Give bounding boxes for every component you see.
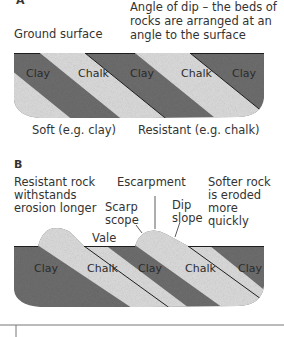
panel-b-block bbox=[0, 220, 284, 330]
softer-rock-line-4: quickly bbox=[208, 215, 249, 228]
scarp-slope-line-2: scope bbox=[105, 214, 139, 227]
rock-label-chalk: Chalk bbox=[78, 67, 109, 80]
rock-label-clay: Clay bbox=[238, 262, 262, 275]
escarpment-label: Escarpment bbox=[117, 176, 186, 189]
rock-label-clay: Clay bbox=[232, 67, 256, 80]
rock-label-chalk: Chalk bbox=[181, 67, 212, 80]
rock-label-clay: Clay bbox=[130, 67, 154, 80]
rock-strata-diagram: Clay Chalk Clay Chalk Clay Clay Chalk Cl… bbox=[0, 0, 284, 337]
vale-label: Vale bbox=[92, 232, 116, 245]
panel-b-label: B bbox=[14, 158, 22, 171]
soft-label: Soft (e.g. clay) bbox=[32, 124, 116, 137]
rock-label-clay: Clay bbox=[26, 67, 50, 80]
resistant-label: Resistant (e.g. chalk) bbox=[138, 124, 260, 137]
dip-slope-line-2: slope bbox=[172, 212, 203, 225]
resistant-rock-line-3: erosion longer bbox=[14, 202, 96, 215]
rock-label-clay: Clay bbox=[34, 262, 58, 275]
rock-label-chalk: Chalk bbox=[87, 262, 118, 275]
panel-a-block bbox=[0, 40, 284, 130]
rock-label-chalk: Chalk bbox=[185, 262, 216, 275]
rock-label-clay: Clay bbox=[138, 262, 162, 275]
